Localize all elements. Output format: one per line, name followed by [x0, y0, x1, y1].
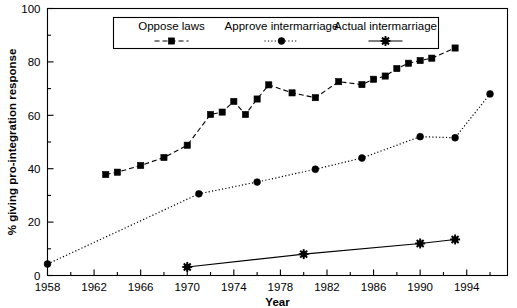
- x-tick-label: 1962: [81, 281, 107, 293]
- data-point: [417, 57, 423, 63]
- data-point: [417, 133, 424, 140]
- data-point: [450, 234, 460, 244]
- intermarriage-attitudes-line-chart: 0204060801001958196219661970197419781982…: [0, 0, 517, 308]
- chart-legend: Oppose lawsApprove intermarriageActual i…: [114, 18, 439, 49]
- series-line: [187, 239, 455, 267]
- data-point: [103, 171, 109, 177]
- data-point: [242, 111, 248, 117]
- legend-label-0: Oppose laws: [138, 20, 205, 32]
- data-point: [452, 134, 459, 141]
- series-line: [106, 48, 455, 175]
- data-point: [429, 55, 435, 61]
- data-point: [415, 238, 425, 248]
- y-tick-label: 20: [28, 216, 41, 228]
- data-point: [312, 166, 319, 173]
- data-point: [114, 169, 120, 175]
- data-point: [254, 179, 261, 186]
- series-oppose-laws: [103, 45, 459, 178]
- chart-container: 0204060801001958196219661970197419781982…: [0, 0, 517, 308]
- data-point: [382, 73, 388, 79]
- data-point: [405, 60, 411, 66]
- y-tick-label: 80: [28, 56, 41, 68]
- legend-marker-1: [278, 38, 285, 45]
- x-axis-title: Year: [265, 296, 290, 308]
- x-tick-label: 1958: [35, 281, 61, 293]
- data-point: [138, 162, 144, 168]
- data-point: [182, 262, 192, 272]
- x-tick-label: 1994: [454, 281, 480, 293]
- data-point: [289, 90, 295, 96]
- y-axis-title: % giving pro-integration response: [6, 49, 18, 236]
- data-point: [44, 261, 51, 268]
- data-point: [161, 154, 167, 160]
- data-point: [299, 249, 309, 259]
- y-tick-label: 60: [28, 110, 41, 122]
- data-point: [359, 155, 366, 162]
- data-point: [487, 91, 494, 98]
- legend-marker-2: [381, 36, 391, 46]
- data-point: [219, 109, 225, 115]
- data-point: [231, 98, 237, 104]
- y-tick-label: 100: [21, 3, 40, 15]
- legend-label-1: Approve intermarriage: [225, 20, 339, 32]
- x-tick-label: 1982: [314, 281, 340, 293]
- data-point: [394, 65, 400, 71]
- data-point: [266, 82, 272, 88]
- data-point: [336, 79, 342, 85]
- data-point: [370, 76, 376, 82]
- series-actual-intermarriage: [182, 234, 460, 272]
- data-point: [195, 190, 202, 197]
- data-point: [312, 95, 318, 101]
- series-line: [48, 94, 491, 264]
- x-tick-label: 1966: [128, 281, 154, 293]
- x-tick-label: 1986: [361, 281, 387, 293]
- x-tick-label: 1970: [174, 281, 200, 293]
- data-point: [184, 142, 190, 148]
- legend-label-2: Actual intermarriage: [334, 20, 437, 32]
- x-tick-label: 1978: [268, 281, 294, 293]
- data-point: [359, 81, 365, 87]
- series-approve-intermarriage: [44, 91, 493, 268]
- data-point: [452, 45, 458, 51]
- y-tick-label: 40: [28, 163, 41, 175]
- data-point: [254, 96, 260, 102]
- x-tick-label: 1990: [407, 281, 433, 293]
- x-tick-label: 1974: [221, 281, 247, 293]
- data-point: [207, 111, 213, 117]
- legend-marker-0: [168, 38, 174, 44]
